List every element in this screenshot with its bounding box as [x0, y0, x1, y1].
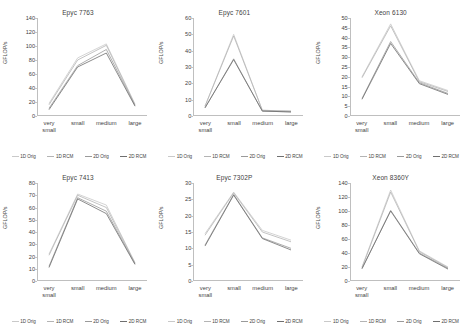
legend-label: 2D RCM — [129, 319, 146, 324]
axes — [350, 18, 460, 116]
legend-item[interactable]: 2D Orig — [241, 154, 265, 159]
axes — [37, 183, 147, 281]
x-tick-label: large — [122, 120, 148, 127]
legend-item[interactable]: 1D RCM — [47, 154, 73, 159]
series-line — [205, 194, 291, 248]
legend-label: 2D RCM — [285, 319, 302, 324]
axes — [350, 183, 460, 281]
legend-label: 1D Orig — [177, 319, 192, 324]
chart-legend: 1D Orig1D RCM2D Orig2D RCM — [319, 319, 465, 324]
chart-title: Epyc 7413 — [0, 174, 156, 181]
legend-item[interactable]: 2D Orig — [397, 319, 421, 324]
legend-line-icon — [47, 321, 54, 322]
series-line — [362, 190, 448, 267]
legend-label: 2D RCM — [442, 154, 459, 159]
legend-label: 2D Orig — [93, 319, 108, 324]
y-tick-label: 140 — [338, 180, 347, 186]
legend-label: 2D Orig — [250, 154, 265, 159]
y-tick-label: 140 — [26, 15, 35, 21]
x-axis-labels: very smallsmallmediumlarge — [350, 283, 460, 307]
chart-legend: 1D Orig1D RCM2D Orig2D RCM — [162, 319, 308, 324]
legend-line-icon — [360, 156, 367, 157]
x-tick-label: very small — [192, 285, 218, 299]
x-tick-label: small — [221, 285, 247, 292]
series-lines — [350, 18, 460, 116]
legend-item[interactable]: 2D RCM — [120, 154, 146, 159]
legend-item[interactable]: 2D Orig — [241, 319, 265, 324]
legend-line-icon — [47, 156, 54, 157]
legend-label: 2D RCM — [285, 154, 302, 159]
legend-item[interactable]: 1D Orig — [12, 319, 36, 324]
legend-item[interactable]: 1D Orig — [12, 154, 36, 159]
series-line — [205, 60, 291, 112]
y-tick-mark — [35, 281, 37, 282]
x-tick-label: medium — [93, 285, 119, 292]
x-tick-label: medium — [250, 120, 276, 127]
y-tick-label: 120 — [26, 29, 35, 35]
x-tick-label: very small — [36, 285, 62, 299]
x-axis-labels: very smallsmallmediumlarge — [193, 283, 303, 307]
y-tick-label: 100 — [26, 43, 35, 49]
legend-item[interactable]: 2D RCM — [120, 319, 146, 324]
series-lines — [193, 18, 303, 116]
x-tick-label: large — [278, 120, 304, 127]
legend-item[interactable]: 1D RCM — [360, 154, 386, 159]
plot-area: GFLOP/s0102030405060very smallsmallmediu… — [156, 18, 312, 128]
x-axis-labels: very smallsmallmediumlarge — [37, 283, 147, 307]
legend-line-icon — [85, 321, 92, 322]
chart-panel: Epyc 7302PGFLOP/s051015202530very smalls… — [156, 165, 312, 330]
series-line — [362, 24, 448, 91]
legend-item[interactable]: 2D RCM — [277, 154, 303, 159]
chart-title: Epyc 7763 — [0, 9, 156, 16]
legend-line-icon — [12, 156, 19, 157]
legend-item[interactable]: 1D Orig — [168, 154, 192, 159]
legend-item[interactable]: 1D Orig — [324, 319, 348, 324]
y-axis-ticks: 020406080100120140 — [325, 183, 349, 281]
y-axis-label: GFLOP/s — [2, 207, 8, 229]
y-axis-ticks: 051015202530 — [168, 183, 192, 281]
series-line — [362, 192, 448, 268]
legend-item[interactable]: 1D RCM — [360, 319, 386, 324]
legend-label: 1D Orig — [20, 154, 35, 159]
chart-panel: Xeon 6130GFLOP/s05101520253035404550very… — [313, 0, 469, 165]
x-tick-label: large — [435, 285, 461, 292]
legend-line-icon — [397, 321, 404, 322]
x-tick-label: small — [65, 285, 91, 292]
legend-label: 1D RCM — [56, 319, 73, 324]
legend-label: 1D Orig — [177, 154, 192, 159]
x-tick-label: very small — [349, 285, 375, 299]
legend-item[interactable]: 2D Orig — [397, 154, 421, 159]
legend-label: 2D RCM — [442, 319, 459, 324]
x-tick-label: very small — [349, 120, 375, 134]
legend-item[interactable]: 2D RCM — [433, 154, 459, 159]
legend-item[interactable]: 1D Orig — [168, 319, 192, 324]
legend-line-icon — [204, 321, 211, 322]
x-tick-label: small — [65, 120, 91, 127]
legend-item[interactable]: 2D Orig — [85, 154, 109, 159]
x-tick-label: medium — [406, 120, 432, 127]
legend-item[interactable]: 1D RCM — [204, 319, 230, 324]
legend-label: 2D Orig — [406, 319, 421, 324]
legend-line-icon — [241, 321, 248, 322]
legend-item[interactable]: 1D Orig — [324, 154, 348, 159]
chart-grid: Epyc 7763GFLOP/s020406080100120140very s… — [0, 0, 469, 331]
legend-item[interactable]: 2D RCM — [277, 319, 303, 324]
legend-label: 1D RCM — [56, 154, 73, 159]
legend-item[interactable]: 1D RCM — [47, 319, 73, 324]
chart-legend: 1D Orig1D RCM2D Orig2D RCM — [6, 319, 152, 324]
legend-line-icon — [204, 156, 211, 157]
y-tick-mark — [191, 116, 193, 117]
legend-item[interactable]: 1D RCM — [204, 154, 230, 159]
y-tick-mark — [35, 116, 37, 117]
legend-item[interactable]: 2D Orig — [85, 319, 109, 324]
legend-line-icon — [85, 156, 92, 157]
x-tick-label: very small — [36, 120, 62, 134]
legend-line-icon — [168, 156, 175, 157]
legend-item[interactable]: 2D RCM — [433, 319, 459, 324]
series-lines — [37, 18, 147, 116]
legend-line-icon — [397, 156, 404, 157]
x-axis-labels: very smallsmallmediumlarge — [37, 118, 147, 142]
y-tick-label: 100 — [338, 208, 347, 214]
legend-label: 1D RCM — [369, 154, 386, 159]
legend-line-icon — [241, 156, 248, 157]
